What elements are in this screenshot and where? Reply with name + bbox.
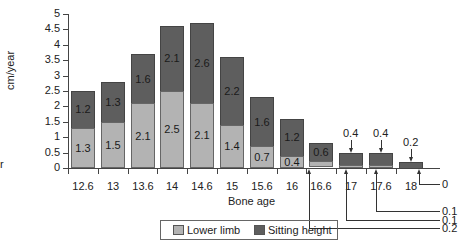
y-tick-mark (63, 45, 68, 46)
callout-label: 0 (442, 178, 448, 190)
legend-label-sitting-height: Sitting height (268, 224, 332, 236)
stacked-bar: 2.12.5 (160, 26, 184, 168)
stacked-bar (399, 162, 423, 168)
x-tick-mark (247, 168, 248, 174)
x-tick-mark (277, 168, 278, 174)
lower-limb-value: 1.4 (220, 140, 244, 152)
sitting-height-swatch (254, 225, 265, 235)
x-tick-mark (98, 168, 99, 174)
x-tick-label: 14 (155, 180, 189, 192)
sitting-height-value: 1.2 (280, 131, 304, 143)
sitting-height-value: 1.6 (250, 116, 274, 128)
x-tick-label: 14.6 (185, 180, 219, 192)
y-tick-mark (63, 60, 68, 61)
sitting-height-value: 1.6 (131, 73, 155, 85)
sitting-height-value: 2.2 (220, 85, 244, 97)
legend: Lower limb Sitting height (160, 220, 338, 240)
sitting-height-segment (399, 162, 423, 169)
sitting-height-value: 2.1 (160, 52, 184, 64)
y-tick-label: 0.5 (40, 147, 60, 158)
callout-line (376, 211, 440, 212)
stacked-bar: 1.62.1 (131, 54, 155, 168)
x-tick-label: 12.6 (66, 180, 100, 192)
x-tick-label: 17.6 (364, 180, 398, 192)
lower-limb-value: 2.5 (160, 123, 184, 135)
callout-line (419, 173, 420, 184)
x-tick-label: 15 (215, 180, 249, 192)
callout-line (376, 173, 377, 211)
x-tick-mark (157, 168, 158, 174)
x-tick-mark (187, 168, 188, 174)
y-tick-label: 4.5 (40, 23, 60, 34)
callout-label: 0.4 (373, 127, 388, 139)
callout-label: 0.4 (343, 127, 358, 139)
lower-limb-value: 2.1 (190, 129, 214, 141)
y-axis-title: cm/year (4, 51, 16, 90)
x-tick-mark (396, 168, 397, 174)
y-tick-label: 3 (40, 70, 60, 81)
y-axis (68, 14, 69, 169)
sitting-height-value: 2.6 (190, 57, 214, 69)
lower-limb-value: 2.1 (131, 130, 155, 142)
legend-item-lower-limb: Lower limb (173, 224, 240, 236)
y-tick-mark (63, 137, 68, 138)
lower-limb-value: 0.4 (280, 156, 304, 168)
stacked-bar (339, 153, 363, 168)
arrow-down-icon (379, 148, 383, 153)
sitting-height-value: 1.3 (101, 96, 125, 108)
x-tick-label: 13 (96, 180, 130, 192)
callout-label: 0.2 (442, 222, 457, 234)
y-tick-mark (63, 106, 68, 107)
edge-text-fragment: r (0, 158, 4, 170)
x-axis (63, 168, 440, 169)
callout-line (411, 149, 412, 157)
x-tick-mark (128, 168, 129, 174)
lower-limb-value: 1.3 (71, 142, 95, 154)
x-axis-title: Bone age (228, 195, 275, 207)
lower-limb-value: 0.7 (250, 151, 274, 163)
y-tick-mark (63, 76, 68, 77)
y-tick-mark (63, 29, 68, 30)
lower-limb-value: 1.5 (101, 139, 125, 151)
x-tick-label: 15.6 (245, 180, 279, 192)
x-tick-mark (366, 168, 367, 174)
x-tick-mark (68, 168, 69, 174)
y-tick-label: 4 (40, 39, 60, 50)
stacked-bar: 1.20.4 (280, 119, 304, 168)
callout-line (351, 140, 352, 148)
y-tick-mark (63, 91, 68, 92)
x-tick-label: 18 (394, 180, 428, 192)
sitting-height-value: 1.2 (71, 103, 95, 115)
y-tick-label: 2.5 (40, 85, 60, 96)
y-tick-mark (63, 153, 68, 154)
y-tick-label: 1 (40, 131, 60, 142)
y-tick-label: 3.5 (40, 54, 60, 65)
y-tick-label: 0 (40, 162, 60, 173)
lower-limb-segment (369, 165, 393, 168)
stacked-bar (369, 153, 393, 168)
stacked-bar: 1.60.7 (250, 97, 274, 168)
x-tick-mark (217, 168, 218, 174)
sitting-height-value: 0.6 (309, 146, 333, 158)
stacked-bar: 2.62.1 (190, 23, 214, 168)
lower-limb-swatch (173, 225, 184, 235)
stacked-bar: 1.21.3 (71, 91, 95, 168)
legend-item-sitting-height: Sitting height (254, 224, 332, 236)
y-tick-label: 1.5 (40, 116, 60, 127)
legend-label-lower-limb: Lower limb (187, 224, 240, 236)
lower-limb-segment (309, 161, 333, 167)
callout-line (419, 184, 440, 185)
stacked-bar: 1.31.5 (101, 82, 125, 168)
callout-label: 0.2 (403, 136, 418, 148)
stacked-bar: 2.21.4 (220, 57, 244, 168)
arrow-down-icon (409, 157, 413, 162)
stacked-bar: 0.6 (309, 143, 333, 168)
y-tick-label: 2 (40, 100, 60, 111)
y-tick-mark (63, 14, 68, 15)
x-tick-label: 17 (334, 180, 368, 192)
callout-line (381, 140, 382, 148)
lower-limb-segment (339, 165, 363, 168)
y-tick-label: 5 (40, 8, 60, 19)
y-tick-mark (63, 122, 68, 123)
callout-line (346, 220, 440, 221)
